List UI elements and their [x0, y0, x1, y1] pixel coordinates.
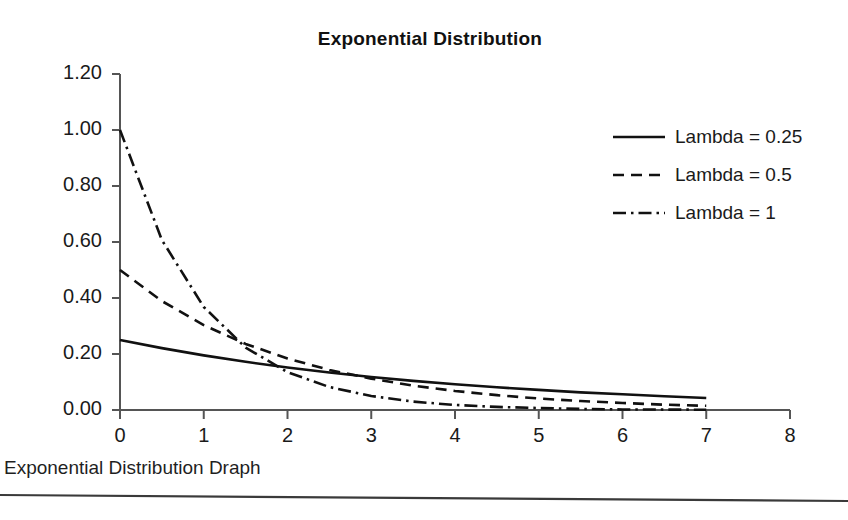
y-axis-tick-label: 0.60: [28, 229, 102, 252]
y-axis-tick-label: 1.00: [28, 117, 102, 140]
x-axis-tick-label: 1: [184, 424, 224, 447]
x-axis-ticks: [120, 410, 790, 419]
series-line-1: [120, 340, 706, 398]
scanned-figure-page: Exponential Distribution 0.000.200.400.6…: [0, 0, 848, 520]
series-line-2: [120, 270, 706, 406]
y-axis-tick-label: 1.20: [28, 61, 102, 84]
x-axis-tick-label: 2: [268, 424, 308, 447]
x-axis-tick-label: 7: [686, 424, 726, 447]
x-axis-tick-label: 0: [100, 424, 140, 447]
x-axis-tick-label: 6: [603, 424, 643, 447]
y-axis-tick-label: 0.80: [28, 173, 102, 196]
legend-line-sample-icon: [612, 168, 666, 182]
legend-line-sample-icon: [612, 130, 666, 144]
chart-legend: Lambda = 0.25Lambda = 0.5Lambda = 1: [612, 118, 842, 232]
x-axis-tick-label: 5: [519, 424, 559, 447]
y-axis-ticks: [112, 74, 120, 410]
figure-caption: Exponential Distribution Draph: [4, 457, 261, 479]
y-axis-tick-label: 0.00: [28, 397, 102, 420]
x-axis-tick-label: 8: [770, 424, 810, 447]
y-axis-tick-label: 0.20: [28, 341, 102, 364]
horizontal-rule: [0, 492, 848, 506]
legend-item-label: Lambda = 0.25: [675, 126, 802, 148]
x-axis-tick-label: 3: [351, 424, 391, 447]
legend-item-3[interactable]: Lambda = 1: [612, 194, 842, 232]
x-axis-tick-label: 4: [435, 424, 475, 447]
legend-item-1[interactable]: Lambda = 0.25: [612, 118, 842, 156]
legend-item-label: Lambda = 1: [675, 202, 776, 224]
legend-item-2[interactable]: Lambda = 0.5: [612, 156, 842, 194]
legend-item-label: Lambda = 0.5: [675, 164, 792, 186]
legend-line-sample-icon: [612, 206, 666, 220]
y-axis-tick-label: 0.40: [28, 285, 102, 308]
